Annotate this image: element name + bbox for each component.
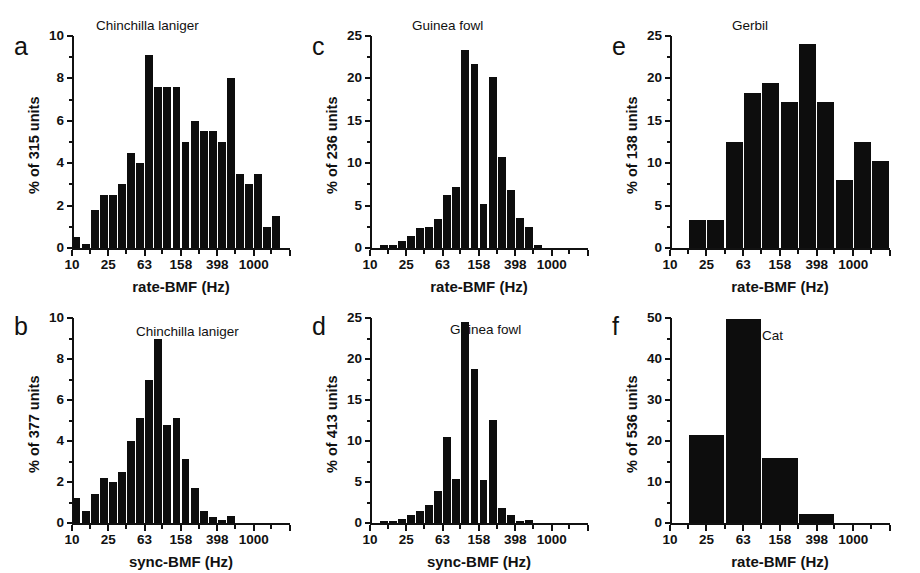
y-tick-label: 5 [322,199,362,213]
x-minor-tick [870,250,872,254]
x-tick [253,525,255,531]
histogram-bar [154,339,162,524]
histogram-bar [416,511,424,523]
histogram-bar [726,319,761,523]
x-minor-tick [724,525,726,529]
x-minor-tick [198,250,200,254]
x-tick [816,525,818,531]
bars-layer [670,36,890,248]
bars-layer [72,318,290,523]
x-tick [180,525,182,531]
panel-letter-f: f [612,314,619,339]
x-minor-tick [387,250,389,254]
histogram-bar [489,77,497,248]
x-tick [71,525,73,531]
x-tick-label: 1000 [228,533,280,547]
histogram-bar [182,459,190,523]
x-tick [705,250,707,256]
y-tick-label: 40 [622,352,662,366]
x-minor-tick [797,525,799,529]
histogram-bar [91,494,99,523]
histogram-bar [218,520,226,523]
x-tick [107,525,109,531]
x-minor-tick [687,525,689,529]
x-minor-tick [532,525,534,529]
bars-layer [72,36,290,248]
histogram-bar [461,50,469,248]
x-tick [779,525,781,531]
histogram-bar [534,245,542,248]
histogram-bar [82,511,90,523]
histogram-bar [154,87,162,248]
y-tick-label: 10 [24,311,64,325]
x-tick [180,250,182,256]
x-tick [478,250,480,256]
x-minor-tick [423,525,425,529]
plot-area-d: 05101520251025631583981000 [370,318,588,523]
x-minor-tick [797,250,799,254]
x-tick [669,525,671,531]
x-tick [478,525,480,531]
histogram-bar [525,227,533,248]
histogram-bar [145,380,153,524]
panel-e: eGerbil05101520251025631583981000% of 13… [612,18,904,298]
x-minor-tick [125,250,127,254]
x-tick [405,250,407,256]
y-tick-label: 5 [322,475,362,489]
x-tick-label: 1000 [827,533,879,547]
histogram-bar [817,102,834,248]
y-axis-label: % of 138 units [624,97,640,195]
x-minor-tick [423,250,425,254]
histogram-bar [118,184,126,248]
x-tick [442,250,444,256]
x-minor-tick [89,525,91,529]
x-minor-tick [459,250,461,254]
histogram-bar [91,210,99,248]
histogram-bar [872,161,889,248]
bars-layer [370,36,588,248]
histogram-bar [471,64,479,248]
x-minor-tick [161,250,163,254]
x-tick [587,525,589,531]
x-tick [514,525,516,531]
histogram-bar [799,44,816,248]
histogram-bar [272,216,280,248]
x-tick [405,525,407,531]
y-tick-label: 20 [322,352,362,366]
histogram-bar [245,184,253,248]
x-tick [852,525,854,531]
x-tick [71,250,73,256]
y-axis-label: % of 236 units [324,97,340,195]
plot-area-c: 05101520251025631583981000 [370,36,588,248]
y-axis-label: % of 377 units [26,375,42,473]
histogram-bar [163,87,171,248]
x-tick [216,525,218,531]
histogram-bar [516,521,524,523]
histogram-bar [516,218,524,248]
x-tick [705,525,707,531]
histogram-bar [173,87,181,248]
histogram-bar [191,121,199,248]
histogram-bar [762,458,797,523]
histogram-bar [209,517,217,523]
y-axis-label: % of 536 units [624,375,640,473]
histogram-bar [452,187,460,248]
histogram-bar [236,174,244,248]
histogram-bar [762,83,779,248]
histogram-bar [200,131,208,248]
y-tick-label: 20 [622,71,662,85]
histogram-bar [781,102,798,248]
histogram-bar [461,322,469,523]
histogram-bar [407,515,415,523]
histogram-bar [118,472,126,523]
panel-b: bChinchilla laniger024681010256315839810… [14,300,304,573]
histogram-bar [689,220,706,248]
bars-layer [370,318,588,523]
x-minor-tick [833,250,835,254]
x-minor-tick [496,250,498,254]
panel-title-e: Gerbil [732,18,768,33]
x-tick [669,250,671,256]
x-tick [551,250,553,256]
histogram-bar [380,521,388,523]
